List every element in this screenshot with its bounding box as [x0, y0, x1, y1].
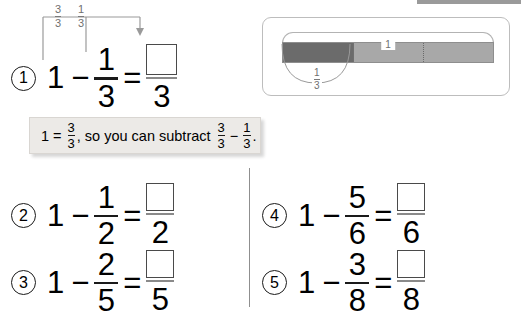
- hint-sub-a-numerator: 3: [218, 121, 225, 134]
- equation-3: 1 − 2 5 = 5: [45, 249, 174, 317]
- hint-sub-a-denominator: 3: [218, 137, 225, 150]
- subtrahend-numerator-2: 1: [98, 182, 115, 214]
- bar-segment-divider-dotted: [423, 43, 424, 62]
- minuend-2: 1: [45, 198, 66, 234]
- answer-fraction-3: 5: [146, 250, 174, 316]
- equation-4: 1 − 5 6 = 6: [296, 182, 425, 250]
- answer-fraction-5: 8: [397, 250, 425, 316]
- minus-operator-1: −: [66, 60, 94, 96]
- answer-numerator-3: [146, 250, 174, 278]
- subtrahend-denominator-5: 8: [349, 285, 366, 317]
- answer-input-box-5[interactable]: [397, 250, 425, 278]
- hint-subtraction-second-fraction: 1 3: [243, 121, 250, 150]
- annotation-label-b-numerator: 1: [78, 4, 84, 15]
- subtrahend-numerator-1: 1: [98, 44, 115, 76]
- problem-3: 3 1 − 2 5 = 5: [11, 249, 174, 317]
- answer-numerator-4: [397, 183, 425, 211]
- equals-sign-4: =: [369, 198, 397, 234]
- minuend-1: 1: [45, 60, 66, 96]
- subtrahend-fraction-3: 2 5: [94, 249, 118, 317]
- hint-period: .: [253, 128, 257, 144]
- hint-equiv-denominator: 3: [68, 137, 75, 150]
- annotation-label-three-thirds: 3 3: [55, 4, 61, 29]
- one-third-numerator: 1: [314, 68, 320, 78]
- minuend-5: 1: [296, 265, 317, 301]
- equation-5: 1 − 3 8 = 8: [296, 249, 425, 317]
- problem-number-1: 1: [11, 66, 36, 91]
- problem-number-5: 5: [262, 270, 287, 295]
- problem-number-3: 3: [11, 270, 36, 295]
- equation-1: 1 − 1 3 = 3: [45, 44, 177, 113]
- subtrahend-fraction-1: 1 3: [94, 44, 118, 112]
- hint-lead-whole: 1: [41, 128, 49, 144]
- subtrahend-numerator-5: 3: [349, 249, 366, 281]
- equation-2: 1 − 1 2 = 2: [45, 182, 174, 250]
- hint-sub-b-numerator: 1: [243, 121, 250, 134]
- minuend-4: 1: [296, 198, 317, 234]
- answer-fraction-1: 3: [146, 44, 177, 113]
- subtrahend-fraction-2: 1 2: [94, 182, 118, 250]
- answer-denominator-5: 8: [403, 284, 420, 316]
- answer-input-box-1[interactable]: [146, 44, 177, 75]
- subtrahend-denominator-3: 5: [98, 285, 115, 317]
- subtrahend-fraction-5: 3 8: [345, 249, 369, 317]
- answer-fraction-4: 6: [397, 183, 425, 249]
- hint-subtraction-first-fraction: 3 3: [218, 121, 225, 150]
- answer-input-box-4[interactable]: [397, 183, 425, 211]
- equals-sign-5: =: [369, 265, 397, 301]
- answer-denominator-2: 2: [152, 217, 169, 249]
- fraction-bar-diagram: 1: [282, 32, 494, 62]
- hint-equals: =: [49, 128, 65, 144]
- column-divider: [249, 168, 250, 307]
- one-third-denominator: 3: [314, 81, 320, 91]
- problem-4: 4 1 − 5 6 = 6: [262, 182, 425, 250]
- annotation-label-one-third: 1 3: [78, 4, 84, 29]
- minuend-3: 1: [45, 265, 66, 301]
- problem-2: 2 1 − 1 2 = 2: [11, 182, 174, 250]
- annotation-label-a-numerator: 3: [55, 4, 61, 15]
- minus-operator-3: −: [66, 265, 94, 301]
- subtrahend-denominator-2: 2: [98, 218, 115, 250]
- answer-numerator-2: [146, 183, 174, 211]
- minus-operator-4: −: [317, 198, 345, 234]
- hint-equivalent-fraction: 3 3: [68, 121, 75, 150]
- problem-5: 5 1 − 3 8 = 8: [262, 249, 425, 317]
- answer-input-box-2[interactable]: [146, 183, 174, 211]
- equals-sign-2: =: [118, 198, 146, 234]
- answer-denominator-1: 3: [153, 81, 170, 113]
- subtrahend-denominator-4: 6: [349, 218, 366, 250]
- hint-minus-operator: −: [227, 128, 241, 144]
- answer-input-box-3[interactable]: [146, 250, 174, 278]
- subtrahend-numerator-3: 2: [98, 249, 115, 281]
- equals-sign-1: =: [118, 60, 146, 96]
- annotation-label-b-denominator: 3: [78, 18, 84, 29]
- subtrahend-denominator-1: 3: [98, 81, 115, 113]
- answer-denominator-3: 5: [152, 284, 169, 316]
- subtrahend-numerator-4: 5: [349, 182, 366, 214]
- problem-number-4: 4: [262, 203, 287, 228]
- hint-middle-text: , so you can subtract: [77, 128, 216, 144]
- page-edge-strip: [417, 0, 521, 4]
- answer-numerator-5: [397, 250, 425, 278]
- one-third-label: 1 3: [312, 68, 322, 91]
- annotation-label-a-denominator: 3: [55, 18, 61, 29]
- fraction-bar-model-panel: 1: [262, 17, 510, 96]
- problem-1: 1 1 − 1 3 = 3: [11, 44, 177, 113]
- hint-equiv-numerator: 3: [68, 121, 75, 134]
- answer-fraction-2: 2: [146, 183, 174, 249]
- hint-box: 1 = 3 3 , so you can subtract 3 3 − 1 3 …: [29, 117, 261, 154]
- minus-operator-2: −: [66, 198, 94, 234]
- minus-operator-5: −: [317, 265, 345, 301]
- problem-number-2: 2: [11, 203, 36, 228]
- whole-bar-label: 1: [381, 40, 395, 50]
- equals-sign-3: =: [118, 265, 146, 301]
- answer-numerator-1: [146, 44, 177, 75]
- answer-denominator-4: 6: [403, 217, 420, 249]
- subtrahend-fraction-4: 5 6: [345, 182, 369, 250]
- bar-segment-shaded: [283, 43, 353, 62]
- hint-sub-b-denominator: 3: [243, 137, 250, 150]
